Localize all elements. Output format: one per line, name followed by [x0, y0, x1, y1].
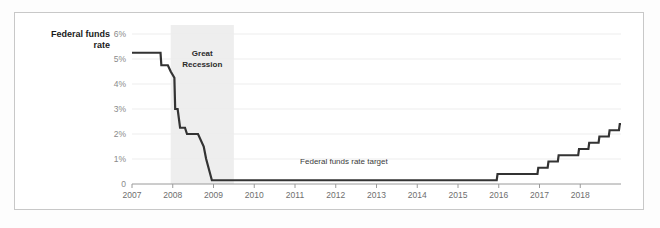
y-axis-tick-label-4: 4%	[114, 79, 127, 89]
x-axis-tick-label-2018: 2018	[571, 190, 590, 200]
federal-funds-rate-chart: GreatRecession01%2%3%4%5%6%2007200820092…	[15, 13, 643, 209]
x-axis-tick-label-2009: 2009	[204, 190, 223, 200]
annotation-series-label: Federal funds rate target	[300, 157, 388, 166]
chart-figure: GreatRecession01%2%3%4%5%6%2007200820092…	[14, 12, 644, 210]
x-axis-tick-label-2007: 2007	[123, 190, 142, 200]
x-axis-tick-label-2008: 2008	[163, 190, 182, 200]
x-axis-tick-label-2013: 2013	[367, 190, 386, 200]
y-axis-tick-label-0: 0	[121, 179, 126, 189]
x-axis-tick-label-2010: 2010	[245, 190, 264, 200]
chart-title-line2: rate	[93, 40, 110, 50]
x-axis-tick-label-2012: 2012	[326, 190, 345, 200]
y-axis-tick-label-1: 1%	[114, 154, 127, 164]
x-axis-tick-label-2017: 2017	[530, 190, 549, 200]
chart-title-line1: Federal funds	[51, 29, 110, 39]
x-axis-tick-label-2016: 2016	[489, 190, 508, 200]
x-axis-tick-label-2014: 2014	[408, 190, 427, 200]
y-axis-tick-label-2: 2%	[114, 129, 127, 139]
recession-band-label-line2: Recession	[182, 60, 222, 69]
y-axis-tick-label-6: 6%	[114, 29, 127, 39]
x-axis-tick-label-2011: 2011	[286, 190, 305, 200]
recession-band-label-line1: Great	[192, 49, 213, 58]
y-axis-tick-label-5: 5%	[114, 54, 127, 64]
y-axis-tick-label-3: 3%	[114, 104, 127, 114]
x-axis-tick-label-2015: 2015	[449, 190, 468, 200]
